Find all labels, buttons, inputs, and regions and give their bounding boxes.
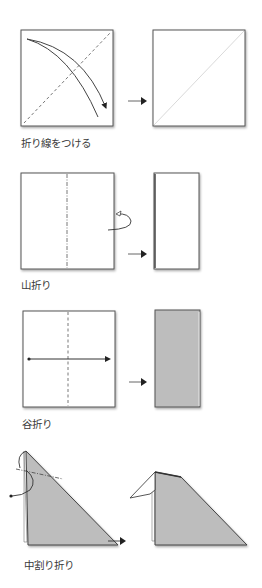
- mountain-fold-before-square: [21, 173, 131, 269]
- mountain-fold-after-rect: [154, 173, 199, 269]
- step-label-inside-reverse-fold: 中割り折り: [24, 558, 74, 572]
- valley-fold-before-square: [23, 311, 115, 407]
- step-arrow-1: [128, 97, 147, 105]
- crease-before-square: [21, 30, 113, 126]
- diagram-graphics: [0, 0, 262, 588]
- inside-reverse-fold-after-shape: [130, 472, 247, 545]
- fold-diagram-sheet: 折り線をつける 山折り 谷折り 中割り折り: [0, 0, 262, 588]
- step-arrow-3: [129, 378, 147, 386]
- step-label-mountain-fold: 山折り: [21, 278, 51, 292]
- crease-after-square: [153, 30, 245, 126]
- inside-reverse-fold-before-triangle: [9, 451, 126, 545]
- valley-fold-after-rect: [155, 310, 200, 407]
- step-label-valley-fold: 谷折り: [22, 417, 52, 431]
- step-label-crease: 折り線をつける: [21, 136, 91, 150]
- step-arrow-2: [128, 250, 147, 258]
